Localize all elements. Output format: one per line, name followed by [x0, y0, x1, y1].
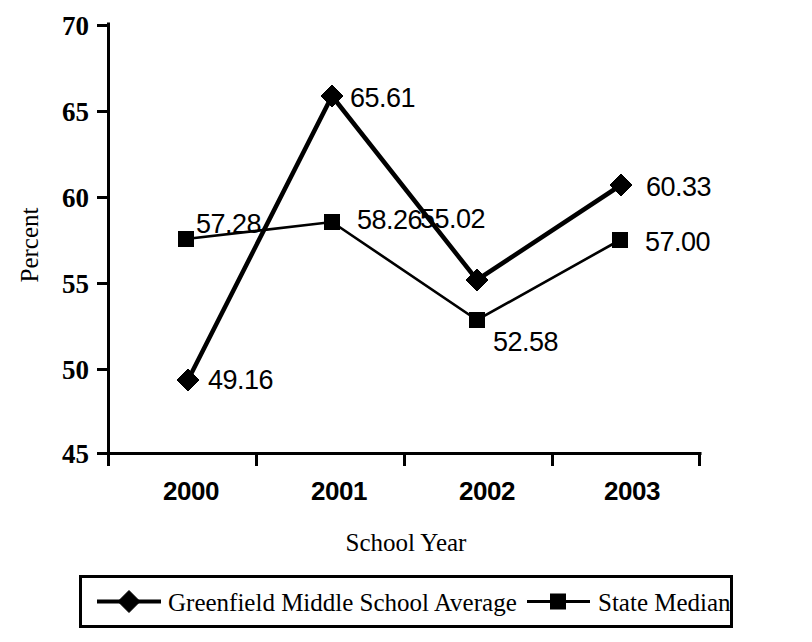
data-label-state-median-2003: 57.00 [645, 227, 710, 257]
x-category-label-2000: 2000 [163, 476, 219, 506]
state-median-marker-2000 [179, 232, 194, 247]
legend-label-state-median: State Median [598, 589, 731, 616]
data-label-greenfield-2000: 49.16 [208, 365, 273, 395]
y-axis-title: Percent [16, 207, 43, 282]
y-tick-label-50: 50 [62, 355, 89, 385]
x-category-label-2003: 2003 [604, 476, 660, 506]
y-tick-label-70: 70 [62, 11, 89, 41]
y-tick-label-65: 65 [62, 97, 89, 127]
legend-label-greenfield: Greenfield Middle School Average [168, 589, 517, 616]
y-tick-label-45: 45 [62, 439, 89, 469]
chart-legend: Greenfield Middle School Average State M… [81, 577, 732, 627]
data-label-greenfield-2001: 65.61 [350, 83, 415, 113]
y-tick-label-55: 55 [62, 269, 89, 299]
state-median-marker-2001 [325, 215, 340, 230]
data-label-state-median-2002: 52.58 [493, 327, 558, 357]
data-label-greenfield-2003: 60.33 [646, 172, 711, 202]
y-tick-label-60: 60 [62, 183, 89, 213]
line-chart-figure: 70 65 60 55 50 45 Percent 2000 2001 2002… [0, 0, 812, 642]
data-label-state-median-2000: 57.28 [196, 209, 261, 239]
x-category-label-2001: 2001 [311, 476, 367, 506]
state-median-marker-2002 [470, 313, 485, 328]
data-label-greenfield-2002: 55.02 [420, 204, 485, 234]
legend-marker-square-icon [551, 594, 566, 609]
x-axis-title: School Year [346, 529, 468, 556]
x-category-label-2002: 2002 [459, 476, 515, 506]
data-label-state-median-2001: 58.26 [357, 205, 422, 235]
state-median-marker-2003 [613, 233, 628, 248]
